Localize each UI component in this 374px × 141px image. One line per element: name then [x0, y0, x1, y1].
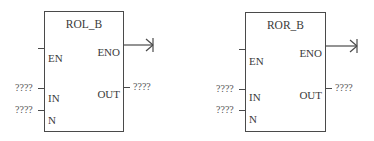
- in-param-value[interactable]: ????: [216, 83, 234, 95]
- out-wire: [326, 88, 332, 89]
- out-param-value[interactable]: ????: [335, 82, 353, 94]
- in-param-value[interactable]: ????: [15, 82, 33, 94]
- in-label: IN: [249, 91, 261, 103]
- n-label: N: [249, 113, 257, 125]
- out-wire: [124, 87, 130, 88]
- n-wire: [38, 110, 44, 111]
- eno-arrow-icon: [124, 38, 156, 54]
- en-wire: [38, 48, 44, 49]
- in-wire: [38, 88, 44, 89]
- n-wire: [239, 110, 245, 111]
- en-label: EN: [48, 52, 63, 64]
- n-param-value[interactable]: ????: [15, 104, 33, 116]
- in-label: IN: [48, 92, 60, 104]
- out-param-value[interactable]: ????: [133, 81, 151, 93]
- out-label: OUT: [299, 89, 322, 101]
- eno-label: ENO: [97, 46, 120, 58]
- ror-b-title: ROR_B: [246, 19, 325, 31]
- rol-b-box: ROL_B EN ENO IN OUT N: [44, 11, 124, 132]
- n-param-value[interactable]: ????: [216, 104, 234, 116]
- en-label: EN: [249, 55, 264, 67]
- eno-arrow-icon: [326, 39, 360, 55]
- out-label: OUT: [97, 88, 120, 100]
- ror-b-box: ROR_B EN ENO IN OUT N: [245, 12, 326, 132]
- eno-label: ENO: [299, 47, 322, 59]
- rol-b-title: ROL_B: [45, 18, 123, 30]
- en-wire: [239, 49, 245, 50]
- n-label: N: [48, 114, 56, 126]
- in-wire: [239, 89, 245, 90]
